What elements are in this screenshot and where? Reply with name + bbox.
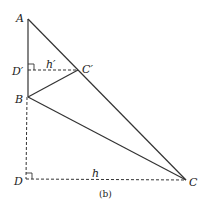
label-D: D xyxy=(13,175,23,188)
segment-BD-extension xyxy=(26,97,27,179)
label-A: A xyxy=(15,12,24,25)
label-C: C xyxy=(189,176,198,189)
label-h: h xyxy=(92,167,99,180)
label-B: B xyxy=(14,93,23,106)
segment-BC xyxy=(28,97,186,180)
label-Cprime: C′ xyxy=(82,63,93,76)
label-h-prime: h′ xyxy=(46,58,56,71)
right-angle-Dprime xyxy=(28,64,34,70)
right-angle-D xyxy=(26,173,32,179)
label-Dprime: D′ xyxy=(11,65,24,78)
triangle-diagram: A D′ h′ C′ B D h C (b) xyxy=(0,0,208,208)
height-h xyxy=(26,179,186,180)
segment-AC xyxy=(28,19,186,180)
figure-caption: (b) xyxy=(99,189,112,199)
geometry-figure: A D′ h′ C′ B D h C (b) xyxy=(0,0,208,208)
segment-BCprime xyxy=(28,70,78,97)
